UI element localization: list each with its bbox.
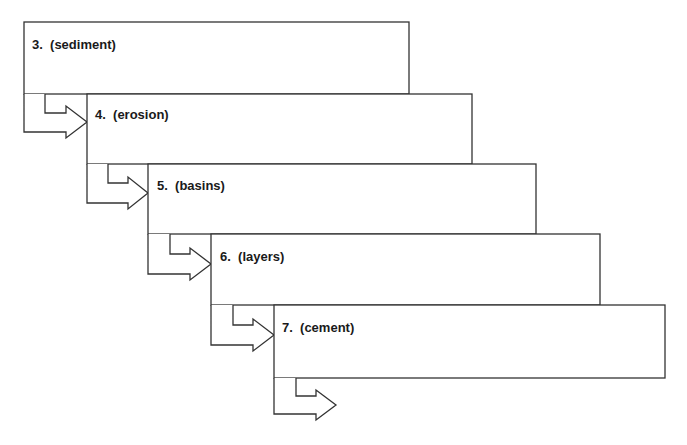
step-label-3: 3. (sediment) xyxy=(32,37,116,52)
step-label-6: 6. (layers) xyxy=(220,249,284,264)
step-box-6 xyxy=(211,234,600,305)
bent-arrow-3-to-4 xyxy=(24,94,87,138)
step-label-5: 5. (basins) xyxy=(157,178,225,193)
bent-arrow-5-to-6 xyxy=(148,234,211,280)
step-box-4 xyxy=(87,94,472,164)
step-box-3 xyxy=(24,22,409,94)
step-label-7: 7. (cement) xyxy=(282,320,354,335)
step-box-7 xyxy=(274,305,665,378)
flow-diagram xyxy=(0,0,687,445)
bent-arrow-6-to-7 xyxy=(211,305,274,351)
bent-arrow-4-to-5 xyxy=(87,164,148,209)
bent-arrow-7-out xyxy=(274,378,336,420)
step-label-4: 4. (erosion) xyxy=(95,107,169,122)
step-box-5 xyxy=(148,164,536,234)
